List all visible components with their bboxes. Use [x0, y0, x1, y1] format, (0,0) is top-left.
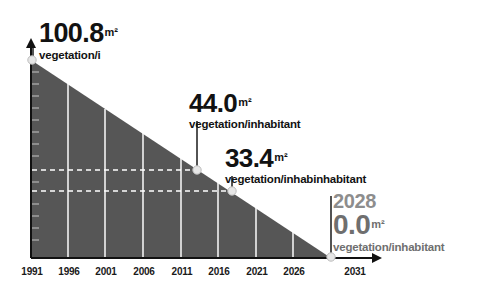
- x-axis-arrow-icon: [372, 253, 382, 263]
- x-tick-2001: 2001: [95, 266, 116, 277]
- marker-2011: [193, 166, 201, 174]
- marker-2028: [327, 253, 335, 261]
- callout-low-value: 33.4m² vegetation/inhabinhabitant: [225, 145, 366, 186]
- x-tick-2026: 2026: [283, 266, 304, 277]
- x-tick-1991: 1991: [21, 266, 42, 277]
- zero-value: 0.0: [333, 209, 370, 240]
- peak-value: 100.8: [39, 18, 104, 48]
- callout-peak-value: 100.8m² vegetation/i: [39, 20, 118, 62]
- x-tick-2016: 2016: [208, 266, 229, 277]
- mid-caption: vegetation/inhabitant: [189, 119, 300, 131]
- low-caption: vegetation/inhabinhabitant: [225, 174, 366, 186]
- vegetation-decline-chart: 100.8m² vegetation/i 44.0m² vegetation/i…: [0, 0, 479, 290]
- zero-caption: vegetation/inhabitant: [333, 242, 444, 254]
- x-tick-1996: 1996: [58, 266, 79, 277]
- zero-unit: m²: [371, 218, 384, 230]
- marker-2016: [228, 187, 236, 195]
- mid-unit: m²: [238, 96, 251, 108]
- x-tick-2006: 2006: [133, 266, 154, 277]
- x-tick-2031: 2031: [344, 266, 365, 277]
- low-value: 33.4: [225, 143, 273, 173]
- y-axis-arrow-icon: [26, 38, 36, 48]
- callout-zero-value: 2028 0.0m² vegetation/inhabitant: [333, 191, 444, 254]
- x-tick-2021: 2021: [246, 266, 267, 277]
- peak-caption: vegetation/i: [39, 50, 118, 62]
- zero-year: 2028: [333, 191, 444, 211]
- callout-mid-value: 44.0m² vegetation/inhabitant: [189, 90, 300, 131]
- peak-unit: m²: [105, 26, 118, 38]
- x-tick-2011: 2011: [172, 266, 193, 277]
- mid-value: 44.0: [189, 88, 237, 118]
- marker-1991: [28, 56, 36, 64]
- low-unit: m²: [274, 151, 287, 163]
